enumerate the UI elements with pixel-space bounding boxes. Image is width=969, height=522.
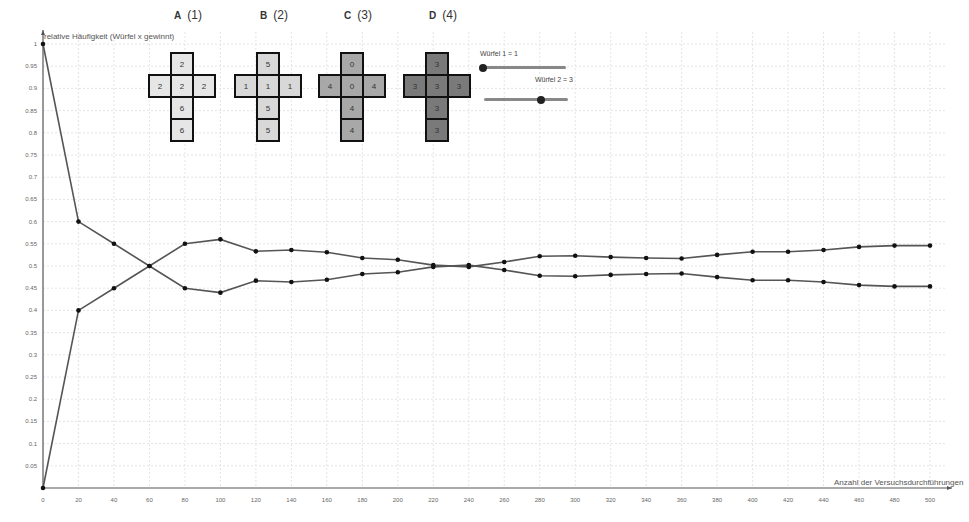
data-point bbox=[750, 278, 755, 283]
y-tick-label: 0.55 bbox=[25, 241, 37, 247]
x-tick-label: 460 bbox=[854, 497, 865, 503]
data-point bbox=[537, 254, 542, 259]
y-tick-label: 0.45 bbox=[25, 285, 37, 291]
x-tick-label: 80 bbox=[182, 497, 189, 503]
data-point bbox=[254, 278, 259, 283]
y-tick-label: 0.8 bbox=[29, 130, 38, 136]
data-point bbox=[857, 283, 862, 288]
die-title: D(4) bbox=[429, 8, 457, 22]
data-point bbox=[431, 263, 436, 268]
x-tick-label: 260 bbox=[499, 497, 510, 503]
y-tick-label: 0.3 bbox=[29, 352, 38, 358]
die-face: 5 bbox=[256, 96, 280, 120]
data-point bbox=[183, 286, 188, 291]
die-letter: C bbox=[344, 10, 351, 21]
x-tick-label: 120 bbox=[251, 497, 262, 503]
y-tick-label: 0.15 bbox=[25, 418, 37, 424]
die-face: 1 bbox=[278, 74, 302, 98]
x-tick-label: 380 bbox=[712, 497, 723, 503]
x-tick-label: 360 bbox=[677, 497, 688, 503]
data-point bbox=[679, 271, 684, 276]
die-face: 3 bbox=[403, 74, 427, 98]
data-point bbox=[644, 256, 649, 261]
data-point bbox=[41, 42, 46, 47]
die-face: 6 bbox=[170, 96, 194, 120]
die-face: 4 bbox=[362, 74, 386, 98]
die-face: 0 bbox=[340, 52, 364, 76]
die-face: 5 bbox=[256, 52, 280, 76]
die-number: (1) bbox=[187, 8, 202, 22]
slider-track[interactable] bbox=[482, 66, 566, 69]
slider-track[interactable] bbox=[484, 98, 568, 101]
die-face: 3 bbox=[447, 74, 471, 98]
die-title: A(1) bbox=[174, 8, 202, 22]
data-point bbox=[360, 272, 365, 277]
data-point bbox=[573, 274, 578, 279]
data-point bbox=[928, 284, 933, 289]
x-tick-label: 100 bbox=[215, 497, 226, 503]
data-point bbox=[892, 284, 897, 289]
data-point bbox=[466, 265, 471, 270]
die-title: B(2) bbox=[260, 8, 288, 22]
x-tick-label: 200 bbox=[393, 497, 404, 503]
die-face: 2 bbox=[170, 52, 194, 76]
die-number: (3) bbox=[357, 8, 372, 22]
y-tick-label: 0.85 bbox=[25, 108, 37, 114]
x-tick-label: 20 bbox=[75, 497, 82, 503]
data-point bbox=[715, 275, 720, 280]
line-chart: 0204060801001201401601802002202402602803… bbox=[0, 0, 969, 522]
x-tick-label: 420 bbox=[783, 497, 794, 503]
x-tick-label: 300 bbox=[570, 497, 581, 503]
data-point bbox=[537, 273, 542, 278]
x-tick-label: 160 bbox=[322, 497, 333, 503]
data-point bbox=[218, 290, 223, 295]
data-point bbox=[289, 280, 294, 285]
die-net-b: B(2)511155 bbox=[234, 32, 300, 148]
data-point bbox=[183, 242, 188, 247]
die-face: 1 bbox=[256, 74, 280, 98]
die-number: (4) bbox=[442, 8, 457, 22]
data-point bbox=[821, 248, 826, 253]
series-2 bbox=[41, 237, 933, 490]
y-tick-label: 0.05 bbox=[25, 463, 37, 469]
die-face: 2 bbox=[148, 74, 172, 98]
data-point bbox=[396, 257, 401, 262]
data-point bbox=[608, 273, 613, 278]
die-title: C(3) bbox=[344, 8, 372, 22]
y-tick-label: 0.4 bbox=[29, 307, 38, 313]
die-net-a: A(1)222266 bbox=[148, 32, 214, 148]
slider-knob[interactable] bbox=[479, 64, 487, 72]
y-tick-label: 0.35 bbox=[25, 330, 37, 336]
data-point bbox=[573, 253, 578, 258]
die-face: 2 bbox=[192, 74, 216, 98]
die-face: 4 bbox=[340, 96, 364, 120]
data-point bbox=[857, 245, 862, 250]
data-point bbox=[396, 270, 401, 275]
y-tick-label: 0.2 bbox=[29, 396, 38, 402]
x-tick-label: 280 bbox=[535, 497, 546, 503]
data-point bbox=[254, 249, 259, 254]
y-tick-label: 0.7 bbox=[29, 174, 38, 180]
y-tick-label: 0.1 bbox=[29, 441, 38, 447]
die-face: 3 bbox=[425, 118, 449, 142]
die-face: 6 bbox=[170, 118, 194, 142]
data-point bbox=[821, 280, 826, 285]
slider-knob[interactable] bbox=[537, 96, 545, 104]
y-tick-label: 0.95 bbox=[25, 63, 37, 69]
x-tick-label: 340 bbox=[641, 497, 652, 503]
die-face: 2 bbox=[170, 74, 194, 98]
data-point bbox=[218, 237, 223, 242]
slider-label: Würfel 2 = 3 bbox=[535, 76, 573, 83]
die-number: (2) bbox=[273, 8, 288, 22]
data-point bbox=[76, 308, 81, 313]
x-tick-label: 480 bbox=[890, 497, 901, 503]
die-face: 4 bbox=[340, 118, 364, 142]
die-net-d: D(4)333333 bbox=[403, 32, 469, 148]
data-point bbox=[644, 272, 649, 277]
x-tick-label: 40 bbox=[111, 497, 118, 503]
data-point bbox=[76, 219, 81, 224]
y-tick-label: 0.75 bbox=[25, 152, 37, 158]
data-point bbox=[502, 268, 507, 273]
slider-label: Würfel 1 = 1 bbox=[480, 50, 518, 57]
data-point bbox=[325, 250, 330, 255]
